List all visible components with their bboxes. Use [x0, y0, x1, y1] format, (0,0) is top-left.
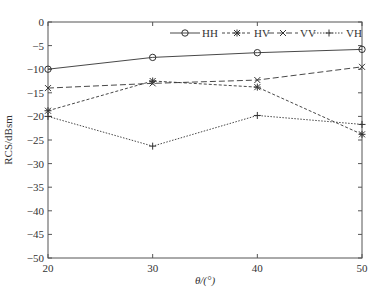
y-tick-label: −45 — [27, 228, 45, 240]
x-tick-label: 30 — [147, 262, 159, 274]
y-tick-label: −20 — [27, 110, 45, 122]
plot-series — [45, 46, 366, 149]
rcs-line-chart: 0−5−10−15−20−25−30−35−40−45−5020304050 H… — [0, 0, 382, 299]
y-tick-label: −10 — [27, 63, 45, 75]
plot-axes: 0−5−10−15−20−25−30−35−40−45−5020304050 — [27, 16, 368, 274]
series-vh — [45, 112, 366, 150]
y-tick-label: −40 — [27, 205, 45, 217]
x-tick-label: 40 — [252, 262, 264, 274]
legend-item-hv: HV — [222, 27, 270, 39]
legend-label: HH — [202, 27, 218, 39]
y-tick-label: −5 — [32, 40, 44, 52]
legend-label: HV — [254, 27, 270, 39]
legend-item-hh: HH — [170, 27, 218, 39]
y-tick-label: −30 — [27, 158, 45, 170]
legend-item-vh: VH — [314, 27, 362, 39]
plot-frame — [48, 22, 362, 258]
y-axis-label: RCS/dBsm — [2, 115, 14, 165]
y-tick-label: −35 — [27, 181, 45, 193]
y-tick-label: −15 — [27, 87, 45, 99]
legend-label: VH — [346, 27, 362, 39]
x-tick-label: 20 — [43, 262, 55, 274]
legend-label: VV — [300, 27, 316, 39]
legend: HHHVVVVH — [170, 27, 362, 39]
series-vv — [45, 64, 365, 91]
x-axis-label: θ/(°) — [195, 274, 216, 287]
y-tick-label: 0 — [39, 16, 45, 28]
y-tick-label: −25 — [27, 134, 45, 146]
series-hh — [45, 46, 365, 72]
x-tick-label: 50 — [357, 262, 369, 274]
legend-item-vv: VV — [268, 27, 316, 39]
